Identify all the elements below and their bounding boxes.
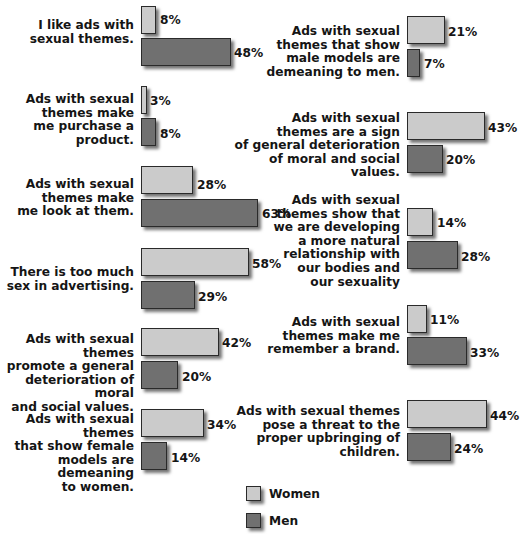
- value-label-women: 28%: [197, 178, 226, 192]
- legend-swatch-women: [246, 486, 261, 501]
- value-label-women: 11%: [430, 313, 459, 327]
- value-label-women: 3%: [150, 94, 171, 108]
- value-label-men: 28%: [461, 250, 490, 264]
- value-label-men: 48%: [234, 46, 263, 60]
- category-label: Ads with sexual themes that show male mo…: [267, 25, 400, 79]
- category-label: Ads with sexual themes show that we are …: [273, 194, 400, 289]
- bar-women: [141, 409, 204, 437]
- bar-women: [407, 112, 485, 140]
- bar-men: [141, 361, 178, 389]
- bar-women: [141, 86, 147, 114]
- category-label: I like ads with sexual themes.: [30, 19, 134, 46]
- bar-men: [407, 433, 451, 461]
- value-label-men: 7%: [424, 57, 445, 71]
- bar-men: [407, 49, 420, 77]
- category-label: Ads with sexual themes that show female …: [0, 413, 134, 495]
- bar-men: [141, 118, 156, 146]
- value-label-women: 42%: [222, 336, 251, 350]
- legend-label-women: Women: [269, 487, 320, 501]
- bar-men: [407, 241, 458, 269]
- bar-women: [141, 6, 156, 34]
- bar-women: [407, 208, 433, 236]
- category-label: There is too much sex in advertising.: [7, 266, 134, 293]
- bar-men: [407, 145, 443, 173]
- bar-women: [407, 400, 487, 428]
- bar-women: [141, 248, 249, 276]
- legend-swatch-men: [246, 513, 261, 528]
- value-label-men: 20%: [446, 153, 475, 167]
- bar-women: [141, 328, 219, 356]
- category-label: Ads with sexual themes make me purchase …: [26, 93, 134, 147]
- bar-women: [141, 166, 193, 194]
- bar-women: [407, 16, 445, 44]
- value-label-men: 20%: [182, 370, 211, 384]
- bar-women: [407, 305, 427, 333]
- bar-men: [407, 337, 467, 365]
- value-label-men: 29%: [198, 290, 227, 304]
- value-label-women: 21%: [448, 25, 477, 39]
- value-label-men: 8%: [160, 127, 181, 141]
- category-label: Ads with sexual themes promote a general…: [0, 333, 134, 415]
- value-label-men: 24%: [454, 442, 483, 456]
- legend-label-men: Men: [269, 514, 298, 528]
- value-label-women: 14%: [437, 216, 466, 230]
- category-label: Ads with sexual themes make me look at t…: [17, 178, 134, 219]
- bar-men: [141, 442, 167, 470]
- bar-men: [141, 199, 258, 227]
- category-label: Ads with sexual themes are a sign of gen…: [235, 112, 400, 180]
- value-label-women: 34%: [207, 418, 236, 432]
- category-label: Ads with sexual themes pose a threat to …: [236, 405, 400, 459]
- category-label: Ads with sexual themes make me remember …: [267, 316, 400, 357]
- value-label-men: 14%: [171, 451, 200, 465]
- value-label-men: 33%: [470, 346, 499, 360]
- bar-men: [141, 38, 231, 66]
- value-label-women: 44%: [490, 409, 519, 423]
- value-label-women: 43%: [488, 121, 517, 135]
- value-label-women: 8%: [160, 13, 181, 27]
- bar-men: [141, 281, 195, 309]
